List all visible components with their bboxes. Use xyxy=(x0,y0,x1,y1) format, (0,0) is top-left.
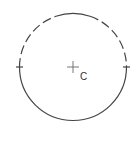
circle-top-arc xyxy=(56,14,90,17)
circle-lower-arc xyxy=(20,67,127,121)
circle-diagram: C xyxy=(0,0,140,159)
center-cross-icon xyxy=(67,61,79,73)
circle-upper-left-dashed-arc xyxy=(20,16,57,67)
center-label: C xyxy=(80,71,87,82)
circle-upper-right-dashed-arc xyxy=(90,16,127,67)
